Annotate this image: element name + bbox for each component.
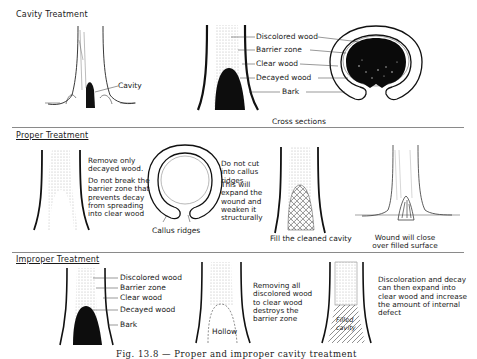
improper-decayed-wood-label: Decayed wood <box>120 305 175 314</box>
callus-ridges-label: Callus ridges <box>152 226 200 235</box>
removing-discolored-note: Removing all discolored wood to clear wo… <box>253 282 315 323</box>
fill-cavity-label: Fill the cleaned cavity <box>270 234 352 243</box>
remove-decayed-note: Remove only decayed wood. <box>88 157 148 174</box>
bark-label: Bark <box>282 87 299 96</box>
clear-wood-label: Clear wood <box>256 59 298 68</box>
improper-barrier-zone-label: Barrier zone <box>120 283 166 292</box>
figure-caption: Fig. 13.8 — Proper and improper cavity t… <box>116 349 357 359</box>
barrier-zone-note: Do not break the barrier zone that preve… <box>88 177 150 218</box>
proper-stem-illustration <box>34 150 89 230</box>
cross-sections-label: Cross sections <box>272 117 326 126</box>
improper-clear-wood-label: Clear wood <box>120 293 162 302</box>
hollow-label: Hollow <box>212 327 237 336</box>
barrier-zone-label: Barrier zone <box>256 45 302 54</box>
section-divider <box>12 127 464 128</box>
improper-discolored-wood-label: Discolored wood <box>120 273 182 282</box>
discolored-wood-label: Discolored wood <box>256 32 318 41</box>
improper-bark-label: Bark <box>120 320 137 329</box>
proper-treatment-title: Proper Treatment <box>16 131 88 140</box>
closed-wound-tree-illustration <box>355 145 460 220</box>
improper-stem-illustration <box>60 268 118 345</box>
cavity-treatment-title: Cavity Treatment <box>16 10 88 19</box>
tree-with-cavity-illustration <box>45 26 136 108</box>
callus-ring-illustration <box>148 145 222 222</box>
wound-close-label: Wound will close over filled surface <box>368 234 442 251</box>
filled-cavity-label: Filled cavity <box>336 317 362 332</box>
cavity-label: Cavity <box>118 81 142 90</box>
cross-section-illustration <box>300 26 422 100</box>
weaken-note: This will expand the wound and weaken it… <box>221 181 273 222</box>
discoloration-expand-note: Discoloration and decay can then expand … <box>378 276 470 317</box>
filled-stem-illustration <box>275 147 325 233</box>
section-divider <box>12 252 464 253</box>
improper-treatment-title: Improper Treatment <box>16 255 99 264</box>
decayed-wood-label: Decayed wood <box>256 73 311 82</box>
